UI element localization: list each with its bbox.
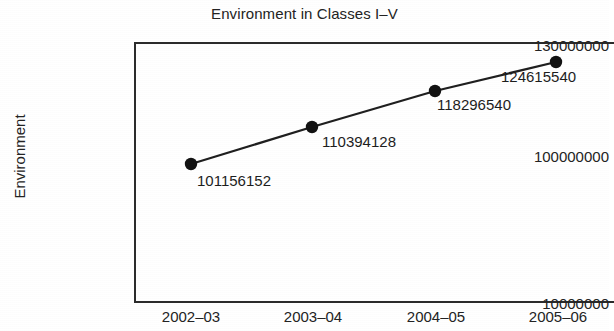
data-point-marker-2005-06 xyxy=(550,56,562,68)
data-point-label-2005-06: 124615540 xyxy=(501,68,576,85)
data-point-marker-2002-03 xyxy=(185,158,197,170)
data-point-marker-2003-04 xyxy=(306,121,318,133)
data-point-label-2003-04: 110394128 xyxy=(322,133,396,150)
data-point-label-2004-05: 118296540 xyxy=(437,96,511,113)
data-point-label-2002-03: 101156152 xyxy=(197,172,271,189)
